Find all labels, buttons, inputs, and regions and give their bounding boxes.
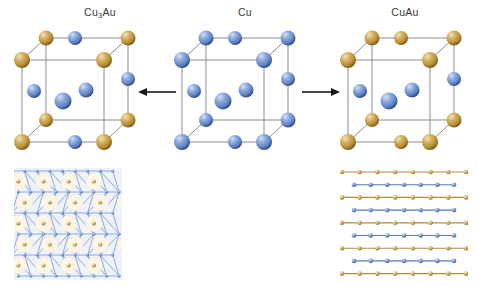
panel-label-cuau-main: CuAu: [391, 6, 418, 18]
panel-label-cu3au: Cu3Au: [40, 6, 160, 18]
cu-face-atoms-cu: [187, 31, 295, 149]
arrow-right: [300, 84, 342, 104]
panel-label-cu3au-main: Cu: [84, 6, 98, 18]
unit-cell-cu3au: [12, 28, 144, 158]
arrow-right-icon: [300, 84, 342, 100]
alternating-rows-lattice: [340, 168, 468, 280]
panel-label-cuau: CuAu: [345, 6, 465, 18]
unit-cell-cuau-svg: [338, 28, 470, 158]
panel-label-cu: Cu: [185, 6, 305, 18]
unit-cell-cuau: [338, 28, 470, 158]
kagome-lattice-svg: [14, 168, 122, 280]
kagome-lattice: [14, 168, 122, 280]
cu-face-atoms-cu3au: [27, 31, 135, 149]
cu-midplane-atoms-cuau: [353, 72, 461, 110]
panel-label-cu-main: Cu: [238, 6, 252, 18]
unit-cell-cu-svg: [172, 28, 304, 158]
figure-root: Cu3Au Cu CuAu: [0, 0, 478, 286]
panel-label-cu3au-subscript: 3: [98, 11, 102, 20]
unit-cell-cu: [172, 28, 304, 158]
unit-cell-cu3au-svg: [12, 28, 144, 158]
alternating-rows-lattice-svg: [340, 168, 468, 280]
panel-label-cu3au-tail: Au: [103, 6, 116, 18]
